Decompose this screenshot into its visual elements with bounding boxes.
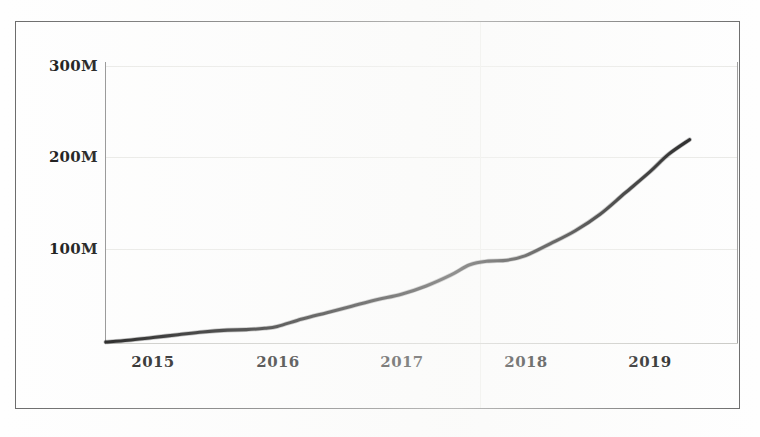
chart-plot-area: 300M 200M 100M 2015 2016 2017 2018 2019: [0, 0, 760, 437]
series-line-value: [106, 140, 690, 342]
series-line-chart: [0, 0, 760, 437]
series-line-halo: [106, 140, 690, 342]
